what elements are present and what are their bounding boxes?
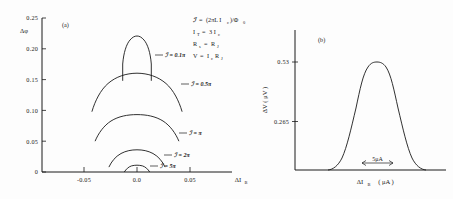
- param-3-rhs-sub: J: [217, 44, 219, 49]
- panel-a-plot: 0.25 0.20 0.15 0.10 0.05 0 Δφ -0.05 0.0 …: [0, 0, 250, 199]
- param-1-rhs-sub: c: [227, 20, 229, 25]
- curve-label-j-pi: ℐ = π: [189, 130, 202, 136]
- panel-a-x-axis-label-sub: B: [245, 180, 248, 185]
- figure-container: 0.25 0.20 0.15 0.10 0.05 0 Δφ -0.05 0.0 …: [0, 0, 453, 199]
- panel-a-x-axis-label-main: ΔI: [235, 176, 241, 183]
- panel-a-y-ticks: [42, 18, 46, 172]
- param-line-4: V = I c R J: [193, 52, 223, 61]
- panel-b-plot: 0.53 0.265 ΔV ( μV ) (b) 5μA ΔI B ( μA ): [250, 0, 453, 199]
- curve-j-pi: [95, 115, 179, 142]
- panel-b-ytick-1: 0.265: [274, 118, 289, 125]
- param-4-tail-sub: J: [221, 56, 223, 61]
- panel-a-ytick-5: 0: [35, 168, 38, 175]
- panel-b-x-axis-label-unit: ( μA ): [378, 178, 394, 186]
- param-3-lhs: R: [193, 40, 198, 47]
- curve-j-2pi: [109, 150, 165, 167]
- param-4-lhs: V: [193, 52, 198, 59]
- param-2-rhs-sub: c: [218, 32, 220, 37]
- curve-j-0p5pi: [92, 73, 182, 112]
- panel-b-x-axis-label: ΔI B ( μA ): [357, 178, 394, 187]
- curve-label-j-0p5pi: ℐ = 0.5π: [191, 81, 212, 87]
- panel-b-ytick-0: 0.53: [277, 58, 289, 65]
- param-line-3: R s = R J: [193, 40, 219, 49]
- panel-a-ytick-0: 0.25: [26, 14, 38, 21]
- curve-delta-v-response: [328, 62, 426, 170]
- param-2-lhs-sub: T: [197, 32, 200, 37]
- param-3-rhs: R: [211, 40, 216, 47]
- panel-a-xtick-2: 0.05: [184, 176, 196, 183]
- curve-label-j-2pi: ℐ = 2π: [174, 152, 190, 158]
- param-3-eq: =: [204, 40, 208, 47]
- panel-b-y-axis-label: ΔV ( μV ): [261, 87, 269, 113]
- panel-a-label: (a): [62, 21, 69, 29]
- panel-b-x-axis-label-main: ΔI: [357, 178, 363, 185]
- param-4-tail: R: [215, 52, 220, 59]
- param-3-lhs-sub: s: [199, 44, 201, 49]
- panel-b-x-axis-label-sub: B: [368, 182, 371, 187]
- panel-a-xtick-0: -0.05: [77, 176, 91, 183]
- param-4-eq: =: [200, 52, 204, 59]
- param-4-rhs: I: [207, 52, 209, 59]
- parameter-annotations: ℐ = (2πL I c )/Φ 0 I T = 3 I c R s = R J: [193, 16, 246, 61]
- scalebar-5ua: 5μA: [362, 156, 393, 165]
- param-2-rhs: 3 I: [209, 28, 216, 35]
- panel-a-x-axis-label: ΔI B: [235, 176, 248, 185]
- param-line-1: ℐ = (2πL I c )/Φ 0: [193, 16, 246, 25]
- scalebar-label: 5μA: [372, 156, 383, 162]
- panel-a-ytick-3: 0.10: [26, 107, 38, 114]
- param-4-rhs-sub: c: [211, 56, 213, 61]
- curve-label-j-0p1pi: ℐ = 0.1π: [165, 52, 186, 58]
- panel-a-y-axis-label: Δφ: [20, 27, 28, 34]
- param-1-lhs: ℐ: [193, 16, 198, 23]
- curve-label-j-5pi: ℐ = 5π: [160, 163, 176, 169]
- panel-a-ytick-2: 0.15: [26, 76, 38, 83]
- param-2-eq: =: [202, 28, 206, 35]
- panel-a-ytick-1: 0.20: [26, 45, 38, 52]
- param-1-tail: )/Φ: [230, 16, 239, 24]
- panel-a-ytick-4: 0.05: [26, 138, 38, 145]
- param-1-tail-sub: 0: [243, 20, 246, 25]
- panel-b-label: (b): [318, 36, 325, 44]
- param-line-2: I T = 3 I c: [193, 28, 220, 37]
- param-1-eq: =: [199, 16, 203, 23]
- param-2-lhs: I: [193, 28, 195, 35]
- param-1-rhs: (2πL I: [206, 16, 221, 24]
- panel-a-xtick-1: 0.0: [133, 176, 141, 183]
